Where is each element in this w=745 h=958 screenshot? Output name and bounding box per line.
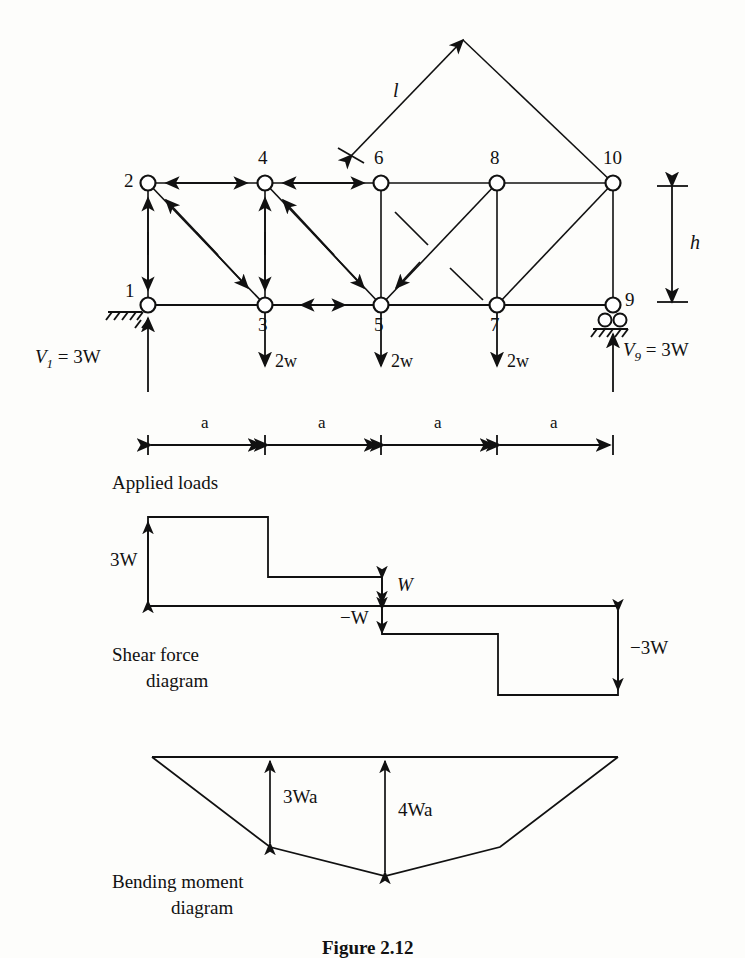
shear-W-label: W [397, 575, 413, 594]
shear-force-diagram-plot [148, 517, 618, 695]
bmd-4Wa-label: 4Wa [398, 800, 432, 819]
height-dimension-label: h [690, 232, 700, 252]
node-label-3: 3 [258, 315, 268, 334]
bmd-3Wa-label: 3Wa [283, 787, 317, 806]
span-label-3: a [434, 414, 442, 431]
shear-negative-3W-label: −3W [630, 638, 668, 657]
shear-3W-text: 3W [110, 549, 137, 570]
shear-3W-label: 3W [110, 550, 137, 569]
truss-members [148, 183, 613, 305]
node-label-2: 2 [124, 171, 134, 190]
span-label-1: a [201, 414, 209, 431]
node-label-6: 6 [374, 148, 384, 167]
shear-negative-W-label: −W [340, 608, 369, 627]
load-value-5: 2w [391, 351, 413, 371]
reaction-symbol-1: V [35, 346, 47, 367]
shear-force-caption-line1: Shear force [112, 645, 199, 664]
bending-moment-caption-line1: Bending moment [112, 872, 243, 891]
node-label-5: 5 [374, 315, 384, 334]
load-value-3: 2w [275, 351, 297, 371]
reaction-symbol-9: V [623, 339, 635, 360]
reaction-label-node-1: V1 = 3W [35, 347, 101, 370]
node-label-10: 10 [603, 148, 622, 167]
shear-negative-W-text: −W [340, 607, 369, 628]
bmd-3Wa-text: 3Wa [283, 786, 317, 807]
roller-support-node-9 [591, 314, 628, 338]
load-value-7: 2w [507, 351, 529, 371]
node-label-8: 8 [490, 148, 500, 167]
member-force-arrows-web [148, 198, 420, 290]
figure-caption: Figure 2.12 [322, 938, 413, 957]
node-label-4: 4 [258, 148, 268, 167]
bmd-4Wa-text: 4Wa [398, 799, 432, 820]
span-label-4: a [550, 414, 558, 431]
load-label-node-3: 2w [275, 352, 297, 370]
node-label-7: 7 [490, 315, 500, 334]
shear-W-text: W [397, 574, 413, 595]
height-dimension [657, 186, 688, 302]
load-label-node-7: 2w [507, 352, 529, 370]
diagonal-hatch-ticks [395, 212, 483, 300]
reaction-value-1: = 3W [53, 346, 101, 367]
shear-negative-3W-text: −3W [630, 637, 668, 658]
reaction-label-node-9: V9 = 3W [623, 340, 689, 363]
load-label-node-5: 2w [391, 352, 413, 370]
reaction-value-9: = 3W [641, 339, 689, 360]
span-dimension-line [148, 435, 613, 455]
bending-moment-caption-line2: diagram [171, 898, 233, 917]
pinned-support-node-1 [106, 312, 148, 328]
node-label-9: 9 [625, 290, 635, 309]
applied-loads-caption: Applied loads [112, 473, 218, 492]
shear-force-caption-line2: diagram [146, 671, 208, 690]
node-label-1: 1 [125, 281, 135, 300]
diagonal-length-label: l [393, 80, 399, 100]
span-label-2: a [318, 414, 326, 431]
